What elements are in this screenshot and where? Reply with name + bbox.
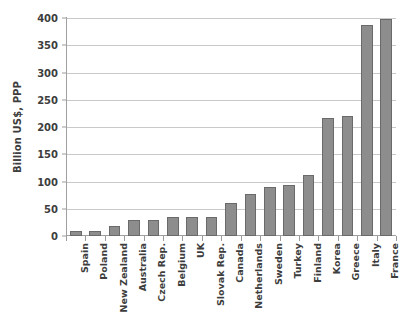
x-axis-tickmark bbox=[396, 236, 397, 241]
x-axis-tickmark bbox=[241, 236, 242, 241]
x-axis-tick-label: France bbox=[390, 243, 400, 327]
bar bbox=[380, 19, 392, 236]
bar bbox=[225, 203, 237, 236]
x-axis-tickmark bbox=[182, 236, 183, 241]
x-axis-tick-label: Finland bbox=[313, 243, 323, 327]
x-axis-tickmark bbox=[124, 236, 125, 241]
bar-chart: Billion US$, PPP 05010015020025030035040… bbox=[0, 0, 410, 330]
x-axis-tick-label: Slovak Rep. bbox=[216, 243, 226, 327]
x-axis-tickmark bbox=[299, 236, 300, 241]
x-axis-tick-labels: SpainPolandNew ZealandAustraliaCzech Rep… bbox=[66, 243, 396, 329]
x-axis-tickmark bbox=[221, 236, 222, 241]
plot-area bbox=[66, 18, 396, 236]
x-axis-tick-label: Sweden bbox=[274, 243, 284, 327]
x-axis-tick-label: Spain bbox=[80, 243, 90, 327]
y-axis-tick-labels: 050100150200250300350400 bbox=[28, 18, 62, 236]
x-axis-tick-label: Turkey bbox=[293, 243, 303, 327]
x-axis-tickmarks bbox=[66, 236, 396, 242]
y-axis-tick-label: 100 bbox=[37, 176, 58, 187]
x-axis-tick-label: Greece bbox=[351, 243, 361, 327]
y-axis-tick-label: 350 bbox=[37, 40, 58, 51]
x-axis-tick-label: Australia bbox=[138, 243, 148, 327]
x-axis-tick-label: Canada bbox=[235, 243, 245, 327]
x-axis-tickmark bbox=[202, 236, 203, 241]
bar bbox=[109, 226, 121, 236]
x-axis-tick-label: New Zealand bbox=[119, 243, 129, 327]
x-axis-tickmark bbox=[260, 236, 261, 241]
y-axis-tick-label: 400 bbox=[37, 13, 58, 24]
y-axis-tick-label: 250 bbox=[37, 94, 58, 105]
y-axis-tick-label: 200 bbox=[37, 122, 58, 133]
y-axis-tick-label: 300 bbox=[37, 67, 58, 78]
x-axis-tick-label: UK bbox=[196, 243, 206, 327]
bar bbox=[342, 116, 354, 236]
x-axis-tick-label: Czech Rep. bbox=[157, 243, 167, 327]
bar bbox=[128, 220, 140, 236]
bar bbox=[283, 185, 295, 236]
x-axis-tickmark bbox=[338, 236, 339, 241]
bar bbox=[361, 25, 373, 236]
bar-series bbox=[66, 18, 396, 236]
y-axis-tick-label: 150 bbox=[37, 149, 58, 160]
bar bbox=[303, 175, 315, 236]
bar bbox=[167, 217, 179, 236]
x-axis-tick-label: Korea bbox=[332, 243, 342, 327]
x-axis-tickmark bbox=[318, 236, 319, 241]
x-axis-tickmark bbox=[144, 236, 145, 241]
x-axis-tickmark bbox=[105, 236, 106, 241]
bar bbox=[245, 194, 257, 236]
x-axis-tickmark bbox=[85, 236, 86, 241]
bar bbox=[322, 118, 334, 236]
bar bbox=[206, 217, 218, 236]
x-axis-tick-label: Netherlands bbox=[254, 243, 264, 327]
x-axis-tick-label: Belgium bbox=[177, 243, 187, 327]
y-axis-tick-label: 0 bbox=[51, 231, 58, 242]
x-axis-tick-label: Poland bbox=[99, 243, 109, 327]
x-axis-tickmark bbox=[66, 236, 67, 241]
x-axis-tick-label: Italy bbox=[371, 243, 381, 327]
x-axis-tickmark bbox=[357, 236, 358, 241]
x-axis-tickmark bbox=[280, 236, 281, 241]
y-axis-tick-label: 50 bbox=[44, 203, 58, 214]
x-axis-tickmark bbox=[163, 236, 164, 241]
x-axis-tickmark bbox=[377, 236, 378, 241]
bar bbox=[148, 220, 160, 236]
bar bbox=[186, 217, 198, 236]
bar bbox=[264, 187, 276, 236]
y-axis-title: Billion US$, PPP bbox=[10, 18, 26, 236]
